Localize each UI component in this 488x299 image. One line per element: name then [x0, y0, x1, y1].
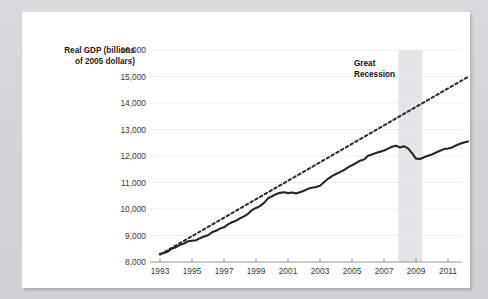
x-tick-label: 2001 [279, 266, 298, 276]
y-axis-title-line2: of 2005 dollars) [75, 57, 135, 66]
great-recession-annotation: Great Recession [354, 59, 395, 79]
y-tick-label: 12,000 [120, 151, 146, 161]
x-axis-ticks: 1993 1995 1997 1999 2001 2003 2005 2007 … [151, 266, 458, 276]
figure-card: 16,000 15,000 14,000 13,000 12,000 11,00… [22, 12, 470, 288]
y-tick-label: 8,000 [125, 257, 146, 267]
y-tick-label: 11,000 [121, 178, 146, 188]
great-recession-label-line1: Great [354, 59, 376, 68]
x-tick-label: 2007 [375, 266, 394, 276]
y-tick-label: 15,000 [120, 72, 146, 82]
x-tick-label: 1997 [215, 266, 234, 276]
x-tick-label: 2003 [311, 266, 330, 276]
x-tick-label: 1993 [151, 266, 170, 276]
great-recession-label-line2: Recession [354, 70, 395, 79]
y-axis-title: Real GDP (billions of 2005 dollars) [64, 46, 135, 66]
y-tick-label: 10,000 [120, 204, 146, 214]
y-tick-label: 14,000 [120, 98, 146, 108]
chart-plot-area: 16,000 15,000 14,000 13,000 12,000 11,00… [22, 12, 470, 288]
gdp-line-chart: 16,000 15,000 14,000 13,000 12,000 11,00… [22, 12, 470, 288]
x-tick-label: 2009 [407, 266, 426, 276]
y-axis-ticks: 16,000 15,000 14,000 13,000 12,000 11,00… [120, 45, 146, 267]
x-tick-label: 1999 [247, 266, 266, 276]
x-tick-label: 1995 [183, 266, 202, 276]
y-tick-label: 13,000 [120, 125, 146, 135]
y-axis-title-line1: Real GDP (billions [64, 46, 135, 55]
x-tick-label: 2011 [439, 266, 457, 276]
y-tick-label: 9,000 [125, 231, 146, 241]
x-tick-label: 2005 [343, 266, 362, 276]
